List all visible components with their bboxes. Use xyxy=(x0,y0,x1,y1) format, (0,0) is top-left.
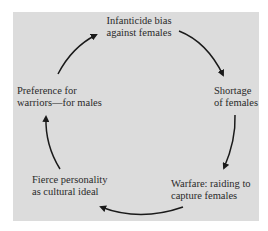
node-preference: Preference for warriors—for males xyxy=(17,85,102,109)
node-shortage: Shortage of females xyxy=(214,85,258,109)
node-fierce: Fierce personality as cultural ideal xyxy=(32,174,108,198)
node-warfare: Warfare: raiding to capture females xyxy=(171,178,251,202)
arrow-infanticide-to-shortage xyxy=(179,31,223,75)
node-infanticide: Infanticide bias against females xyxy=(98,15,180,39)
arrow-fierce-to-preference xyxy=(46,117,60,169)
arrow-shortage-to-warfare xyxy=(224,115,235,168)
arrow-preference-to-infanticide xyxy=(58,35,96,74)
arrow-warfare-to-fierce xyxy=(101,207,183,215)
